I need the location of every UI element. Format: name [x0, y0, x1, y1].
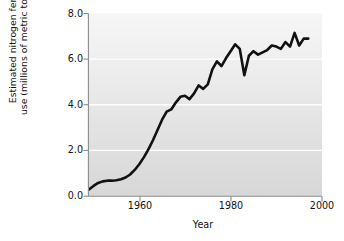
x-axis-title: Year	[0, 219, 344, 230]
x-tick-label-2000: 2000	[297, 200, 344, 211]
chart-figure: 8.0 6.0 4.0 2.0 0.0 1960 1980 2000 Year …	[0, 0, 344, 241]
x-axis-tick-labels: 1960 1980 2000	[0, 0, 344, 241]
x-axis-title-text: Year	[193, 219, 213, 230]
x-tick-label-1960: 1960	[115, 200, 165, 211]
x-tick-label-1980: 1980	[206, 200, 256, 211]
